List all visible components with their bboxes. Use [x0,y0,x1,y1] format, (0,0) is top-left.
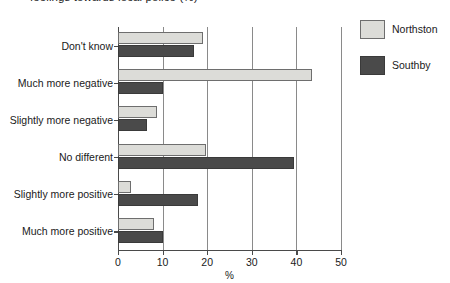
legend-swatch [360,56,385,75]
x-tick [296,251,297,255]
x-tick-label: 40 [276,256,316,268]
category-tick [114,194,118,195]
bar-southby [118,194,198,206]
x-tick-label: 10 [143,256,183,268]
x-tick [341,251,342,255]
x-tick [252,251,253,255]
bar-northston [118,144,206,156]
bar-group [118,139,341,176]
chart-figure: feelings towards local police (%) Don't … [0,0,450,283]
bar-southby [118,231,163,243]
category-tick [114,83,118,84]
category-label: Much more positive [0,225,113,237]
category-label: Much more negative [0,77,113,89]
x-tick-label: 50 [321,256,361,268]
bar-northston [118,218,154,230]
bar-southby [118,45,194,57]
bar-group [118,176,341,213]
legend-label: Northston [392,23,438,35]
bar-northston [118,106,157,118]
category-tick [114,157,118,158]
bar-northston [118,181,131,193]
legend-swatch [360,20,385,39]
bar-northston [118,69,312,81]
bar-northston [118,32,203,44]
category-tick [114,120,118,121]
bar-group [118,27,341,64]
category-tick [114,46,118,47]
category-label: Slightly more positive [0,188,113,200]
x-tick-label: 0 [98,256,138,268]
legend-label: Southby [392,59,431,71]
bar-group [118,101,341,138]
category-tick [114,231,118,232]
category-label: No different [0,151,113,163]
bar-group [118,213,341,250]
gridline [341,27,342,250]
x-axis-title: % [118,270,341,281]
category-label: Slightly more negative [0,114,113,126]
x-tick [118,251,119,255]
x-tick-label: 20 [187,256,227,268]
x-tick-label: 30 [232,256,272,268]
bar-group [118,64,341,101]
chart-title: feelings towards local police (%) [30,0,430,4]
bar-southby [118,157,294,169]
x-tick [207,251,208,255]
x-tick [163,251,164,255]
bar-southby [118,82,163,94]
bar-southby [118,119,147,131]
category-label: Don't know [0,40,113,52]
